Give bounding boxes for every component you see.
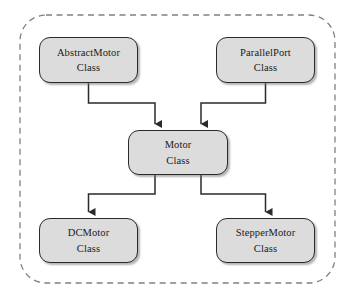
node-parallelport[interactable]: ParallelPort Class (216, 37, 315, 83)
node-steppermotor-subtitle: Class (254, 241, 277, 256)
node-abstractmotor[interactable]: AbstractMotor Class (39, 37, 138, 83)
connector-motor-to-steppermotor (201, 175, 266, 212)
node-parallelport-subtitle: Class (254, 60, 277, 75)
node-steppermotor[interactable]: StepperMotor Class (216, 218, 315, 263)
connector-motor-to-dcmotor (89, 175, 156, 212)
diagram-canvas: AbstractMotor Class ParallelPort Class M… (0, 0, 350, 301)
node-abstractmotor-subtitle: Class (77, 60, 100, 75)
node-parallelport-title: ParallelPort (240, 45, 291, 60)
node-abstractmotor-title: AbstractMotor (57, 45, 120, 60)
node-motor[interactable]: Motor Class (128, 130, 228, 175)
node-dcmotor[interactable]: DCMotor Class (39, 218, 138, 263)
node-dcmotor-subtitle: Class (77, 241, 100, 256)
node-motor-subtitle: Class (166, 153, 189, 168)
node-motor-title: Motor (165, 137, 192, 152)
connector-abstractmotor-to-motor (89, 83, 156, 124)
node-dcmotor-title: DCMotor (68, 225, 110, 240)
connector-parallelport-to-motor (201, 83, 266, 124)
node-steppermotor-title: StepperMotor (236, 225, 296, 240)
